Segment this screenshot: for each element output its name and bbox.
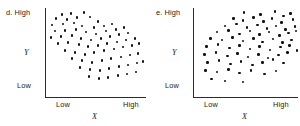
scatter-point xyxy=(243,11,246,14)
scatter-point xyxy=(227,68,230,71)
scatter-point xyxy=(246,26,249,29)
scatter-point xyxy=(91,61,94,64)
scatter-point xyxy=(90,39,93,42)
scatter-point xyxy=(64,49,67,52)
x-axis-low-label-e: Low xyxy=(204,100,218,109)
scatter-point xyxy=(113,48,116,51)
scatter-point xyxy=(81,25,84,28)
scatter-point xyxy=(238,44,241,47)
scatter-point xyxy=(51,24,54,27)
scatter-point xyxy=(250,69,253,72)
scatter-point xyxy=(71,57,74,60)
panel-e: e. High Low Y Low High X xyxy=(150,0,300,126)
x-axis-low-label-d: Low xyxy=(56,100,70,109)
scatter-point xyxy=(97,20,100,23)
scatter-point xyxy=(263,73,266,76)
x-axis-title-e: X xyxy=(242,112,247,121)
scatter-point xyxy=(50,36,53,39)
scatter-point xyxy=(74,51,77,54)
x-axis-title-d: X xyxy=(92,112,97,121)
scatter-point xyxy=(55,17,58,20)
scatter-point xyxy=(295,30,298,33)
scatter-point xyxy=(75,28,78,31)
scatter-point xyxy=(99,69,102,72)
scatter-point xyxy=(138,42,141,45)
scatter-point xyxy=(266,27,269,30)
scatter-point xyxy=(252,37,255,40)
scatter-point xyxy=(60,35,63,38)
scatter-point xyxy=(76,16,79,19)
scatter-point xyxy=(57,42,60,45)
scatter-plot-area-e xyxy=(194,8,298,97)
scatter-point xyxy=(238,72,241,75)
scatter-point xyxy=(259,13,262,16)
scatter-point xyxy=(127,64,130,67)
scatter-point xyxy=(258,33,261,36)
scatter-point xyxy=(73,22,76,25)
scatter-point xyxy=(126,73,129,76)
scatter-point xyxy=(54,30,57,33)
scatter-point xyxy=(242,19,245,22)
y-axis-title-d: Y xyxy=(24,48,29,57)
scatter-point xyxy=(111,23,114,26)
scatter-point xyxy=(235,23,238,26)
scatter-point xyxy=(224,80,227,83)
scatter-point xyxy=(292,18,295,21)
scatter-point xyxy=(100,37,103,40)
scatter-point xyxy=(136,62,139,65)
scatter-point xyxy=(117,74,120,77)
panel-d: d. High Low Y Low High X xyxy=(0,0,150,126)
scatter-point xyxy=(224,25,227,28)
scatter-point xyxy=(231,36,234,39)
scatter-point xyxy=(89,68,92,71)
scatter-point xyxy=(242,40,245,43)
scatter-point xyxy=(216,71,219,74)
scatter-point xyxy=(108,67,111,70)
panel-label-d: d. High xyxy=(6,8,30,17)
scatter-point xyxy=(287,32,290,35)
scatter-point xyxy=(281,41,284,44)
y-axis-low-label-e: Low xyxy=(165,81,179,90)
scatter-point xyxy=(118,33,121,36)
scatter-point xyxy=(89,16,92,19)
scatter-point xyxy=(249,30,252,33)
scatter-point xyxy=(280,21,283,24)
scatter-point xyxy=(80,37,83,40)
scatter-point xyxy=(256,24,259,27)
scatter-point xyxy=(78,43,81,46)
scatter-point xyxy=(103,49,106,52)
scatter-point xyxy=(116,41,119,44)
scatter-point xyxy=(289,12,292,15)
scatter-point xyxy=(240,60,243,63)
scatter-point xyxy=(227,29,230,32)
scatter-point xyxy=(81,59,84,62)
scatter-point xyxy=(286,51,289,54)
scatter-point xyxy=(282,62,285,65)
scatter-point xyxy=(251,64,254,67)
scatter-point xyxy=(282,15,285,18)
scatter-point xyxy=(257,53,260,56)
scatter-point xyxy=(71,34,74,37)
scatter-point xyxy=(272,58,275,61)
scatter-point xyxy=(137,52,140,55)
scatter-point xyxy=(95,33,98,36)
scatter-point xyxy=(106,42,109,45)
scatter-point xyxy=(228,47,231,50)
scatter-point xyxy=(217,43,220,46)
scatter-point xyxy=(70,12,73,15)
scatter-point xyxy=(142,60,145,63)
x-axis-high-label-d: High xyxy=(123,100,139,109)
y-axis-low-label-d: Low xyxy=(17,81,31,90)
scatter-point xyxy=(66,18,69,21)
scatter-point xyxy=(83,11,86,14)
scatter-point xyxy=(238,33,241,36)
scatter-point xyxy=(236,52,239,55)
scatter-point xyxy=(110,57,113,60)
scatter-point xyxy=(115,28,118,31)
scatter-point xyxy=(206,61,209,64)
scatter-point xyxy=(98,77,101,80)
scatter-point xyxy=(103,25,106,28)
scatter-point xyxy=(210,78,213,81)
scatter-point xyxy=(290,39,293,42)
scatter-point xyxy=(129,54,132,57)
